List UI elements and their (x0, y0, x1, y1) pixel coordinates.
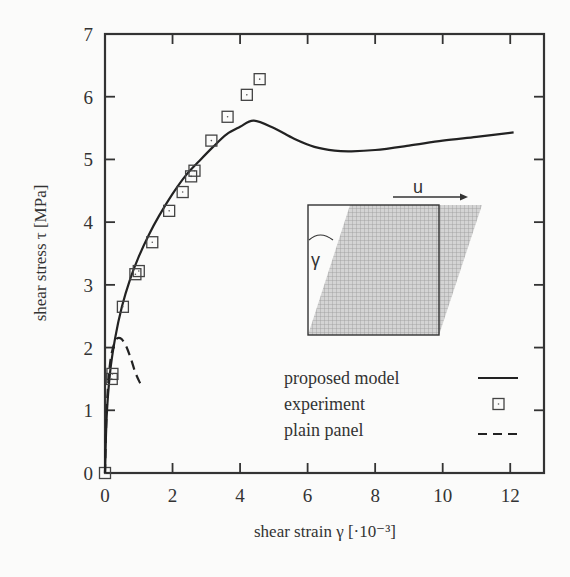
x-tick-label: 10 (433, 485, 452, 506)
shear-panel-inset: γ u (308, 177, 482, 335)
plain-panel-curve (105, 338, 140, 473)
legend: proposed modelexperimentplain panel (284, 368, 518, 440)
legend-label: plain panel (284, 420, 363, 440)
y-tick-label: 3 (84, 275, 94, 296)
y-axis-label: shear stress τ [MPa] (31, 185, 50, 322)
y-tick-label: 4 (84, 212, 94, 233)
x-tick-label: 4 (235, 485, 245, 506)
arrow-head-icon (460, 194, 468, 201)
x-tick-label: 0 (100, 485, 110, 506)
y-tick-label: 0 (84, 463, 94, 484)
y-tick-label: 6 (84, 87, 94, 108)
x-axis-label: shear strain γ [·10⁻³] (254, 522, 396, 541)
y-tick-label: 7 (84, 24, 94, 45)
y-tick-label: 5 (84, 149, 94, 170)
y-tick-label: 2 (84, 338, 94, 359)
y-tick-label: 1 (84, 400, 94, 421)
shear-stress-strain-chart: 024681012 01234567 shear strain γ [·10⁻³… (0, 0, 570, 577)
gamma-label: γ (311, 250, 320, 270)
x-tick-label: 2 (168, 485, 178, 506)
x-tick-label: 8 (370, 485, 380, 506)
angle-arc (309, 235, 333, 240)
x-tick-label: 12 (501, 485, 520, 506)
legend-label: proposed model (284, 368, 399, 388)
legend-label: experiment (284, 394, 365, 414)
sheared-panel-shape (308, 205, 482, 335)
x-tick-label: 6 (303, 485, 313, 506)
displacement-label: u (413, 177, 423, 197)
